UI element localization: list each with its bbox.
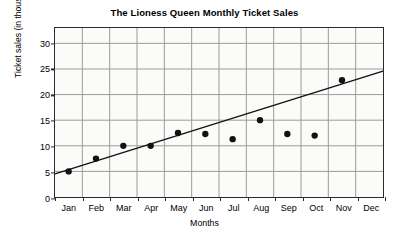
- y-tick-label: 5: [45, 168, 50, 178]
- x-tick-mark: [248, 197, 249, 201]
- x-tick-label: Nov: [336, 203, 352, 213]
- plot-area: 051015202530JanFebMarAprMayJunJulAugSepO…: [54, 27, 384, 198]
- x-tick-label: Jun: [199, 203, 214, 213]
- x-tick-label: Jul: [228, 203, 240, 213]
- ticket-sales-scatter-chart: The Lioness Queen Monthly Ticket Sales T…: [0, 0, 409, 241]
- x-axis-title: Months: [0, 218, 409, 228]
- y-tick-label: 25: [40, 64, 50, 74]
- y-axis-title: Ticket sales (in thousands): [13, 0, 23, 91]
- x-tick-label: Jan: [61, 203, 76, 213]
- chart-title: The Lioness Queen Monthly Ticket Sales: [0, 7, 409, 18]
- x-tick-label: Oct: [309, 203, 323, 213]
- x-tick-label: Apr: [144, 203, 158, 213]
- x-tick-label: May: [170, 203, 187, 213]
- y-tick-mark: [51, 121, 55, 122]
- x-tick-mark: [110, 197, 111, 201]
- x-tick-label: Sep: [281, 203, 297, 213]
- data-point-marker: [257, 117, 263, 123]
- y-tick-mark: [51, 172, 55, 173]
- data-point-marker: [93, 155, 99, 161]
- y-tick-mark: [51, 69, 55, 70]
- x-tick-mark: [83, 197, 84, 201]
- data-point-marker: [311, 132, 317, 138]
- y-tick-label: 30: [40, 39, 50, 49]
- y-tick-label: 15: [40, 116, 50, 126]
- data-point-marker: [339, 77, 345, 83]
- y-tick-label: 20: [40, 90, 50, 100]
- y-tick-mark: [51, 43, 55, 44]
- x-tick-label: Aug: [253, 203, 269, 213]
- y-tick-mark: [51, 147, 55, 148]
- y-tick-mark: [51, 95, 55, 96]
- x-tick-mark: [55, 197, 56, 201]
- x-tick-label: Dec: [363, 203, 379, 213]
- x-tick-mark: [330, 197, 331, 201]
- x-tick-mark: [165, 197, 166, 201]
- data-point-marker: [202, 131, 208, 137]
- data-series-layer: [55, 28, 383, 197]
- data-point-marker: [147, 143, 153, 149]
- x-tick-label: Feb: [88, 203, 104, 213]
- data-point-marker: [229, 136, 235, 142]
- x-tick-mark: [358, 197, 359, 201]
- x-tick-mark: [275, 197, 276, 201]
- data-point-marker: [284, 131, 290, 137]
- data-point-marker: [175, 130, 181, 136]
- x-tick-mark: [385, 197, 386, 201]
- trend-line: [55, 71, 383, 174]
- y-tick-label: 0: [45, 194, 50, 204]
- x-tick-mark: [138, 197, 139, 201]
- y-tick-label: 10: [40, 142, 50, 152]
- x-tick-mark: [220, 197, 221, 201]
- x-tick-mark: [303, 197, 304, 201]
- x-tick-label: Mar: [116, 203, 132, 213]
- data-point-marker: [120, 143, 126, 149]
- x-tick-mark: [193, 197, 194, 201]
- data-point-marker: [65, 168, 71, 174]
